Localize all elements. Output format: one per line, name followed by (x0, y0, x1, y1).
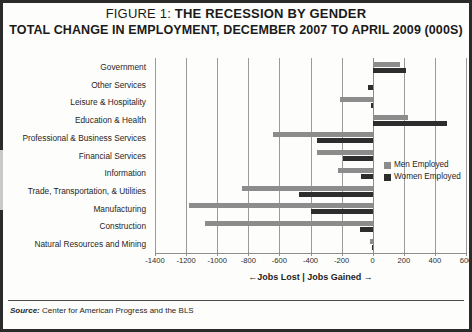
legend-item-women-employed: Women Employed (384, 171, 461, 183)
bar-women (373, 68, 406, 73)
legend-item-men-employed: Men Employed (384, 159, 461, 171)
legend-swatch-icon (384, 174, 391, 181)
bar-men (205, 221, 373, 226)
figure-title-line1: FIGURE 1: THE RECESSION BY GENDER (0, 6, 472, 22)
page-border-top (0, 0, 472, 3)
category-label: Manufacturing (0, 204, 150, 214)
bar-men (373, 62, 400, 67)
bar-row (155, 218, 466, 236)
category-label: Other Services (0, 80, 150, 90)
category-label: Professional & Business Services (0, 133, 150, 143)
x-tick-label: 200 (397, 256, 410, 265)
bar-row (155, 200, 466, 218)
source-text: Center for American Progress and the BLS (42, 306, 194, 315)
bar-women (343, 156, 373, 161)
source-label: Source: (10, 306, 40, 315)
bar-men (370, 239, 373, 244)
bar-women (299, 192, 373, 197)
category-label: Government (0, 62, 150, 72)
bar-men (273, 132, 373, 137)
category-label: Construction (0, 221, 150, 231)
category-label: Trade, Transportation, & Utilities (0, 186, 150, 196)
x-tick-label: -400 (303, 256, 318, 265)
legend-swatch-icon (384, 162, 391, 169)
category-label: Financial Services (0, 151, 150, 161)
bar-row (155, 58, 466, 76)
bar-row (155, 111, 466, 129)
bar-women (311, 209, 373, 214)
figure-title-block: FIGURE 1: THE RECESSION BY GENDER TOTAL … (0, 6, 472, 38)
category-label: Leisure & Hospitality (0, 97, 150, 107)
figure-page: FIGURE 1: THE RECESSION BY GENDER TOTAL … (0, 0, 472, 332)
bar-men (189, 203, 372, 208)
legend-label: Women Employed (394, 171, 461, 183)
bar-men (373, 79, 374, 84)
category-axis-labels: GovernmentOther ServicesLeisure & Hospit… (0, 58, 150, 253)
source-divider (8, 300, 464, 301)
bar-row (155, 76, 466, 94)
bar-women (368, 85, 373, 90)
bar-row (155, 235, 466, 253)
x-tick-label: -200 (334, 256, 349, 265)
x-tick-label: 600 (460, 256, 472, 265)
bar-men (317, 150, 373, 155)
bar-men (373, 115, 409, 120)
chart-legend: Men EmployedWomen Employed (384, 159, 461, 183)
source-note: Source: Center for American Progress and… (10, 306, 194, 315)
x-tick-label: 400 (429, 256, 442, 265)
bar-women (372, 245, 373, 250)
category-label: Education & Health (0, 115, 150, 125)
x-axis-title: ←Jobs Lost | Jobs Gained → (155, 272, 466, 282)
bar-row (155, 93, 466, 111)
bar-row (155, 129, 466, 147)
x-tick-label: -1400 (145, 256, 164, 265)
x-tick-label: -1000 (207, 256, 226, 265)
plot-area (155, 58, 466, 253)
bar-men (338, 168, 372, 173)
x-tick-label: -800 (241, 256, 256, 265)
category-label: Natural Resources and Mining (0, 239, 150, 249)
bar-men (242, 186, 373, 191)
figure-number: FIGURE 1: (106, 6, 171, 21)
x-tick-label: -1200 (176, 256, 195, 265)
bar-women (361, 174, 373, 179)
bar-men (340, 97, 373, 102)
bar-women (371, 103, 373, 108)
x-axis-ticks: -1400-1200-1000-800-600-400-200020040060… (155, 256, 466, 268)
bar-row (155, 182, 466, 200)
x-tick-label: -600 (272, 256, 287, 265)
bar-women (373, 121, 448, 126)
figure-subtitle: TOTAL CHANGE IN EMPLOYMENT, DECEMBER 200… (0, 22, 472, 38)
bar-women (317, 138, 372, 143)
figure-title-main: THE RECESSION BY GENDER (175, 6, 366, 21)
x-tick-label: 0 (371, 256, 375, 265)
category-label: Information (0, 168, 150, 178)
bar-women (360, 227, 372, 232)
gridline-600 (466, 58, 467, 253)
legend-label: Men Employed (394, 159, 449, 171)
